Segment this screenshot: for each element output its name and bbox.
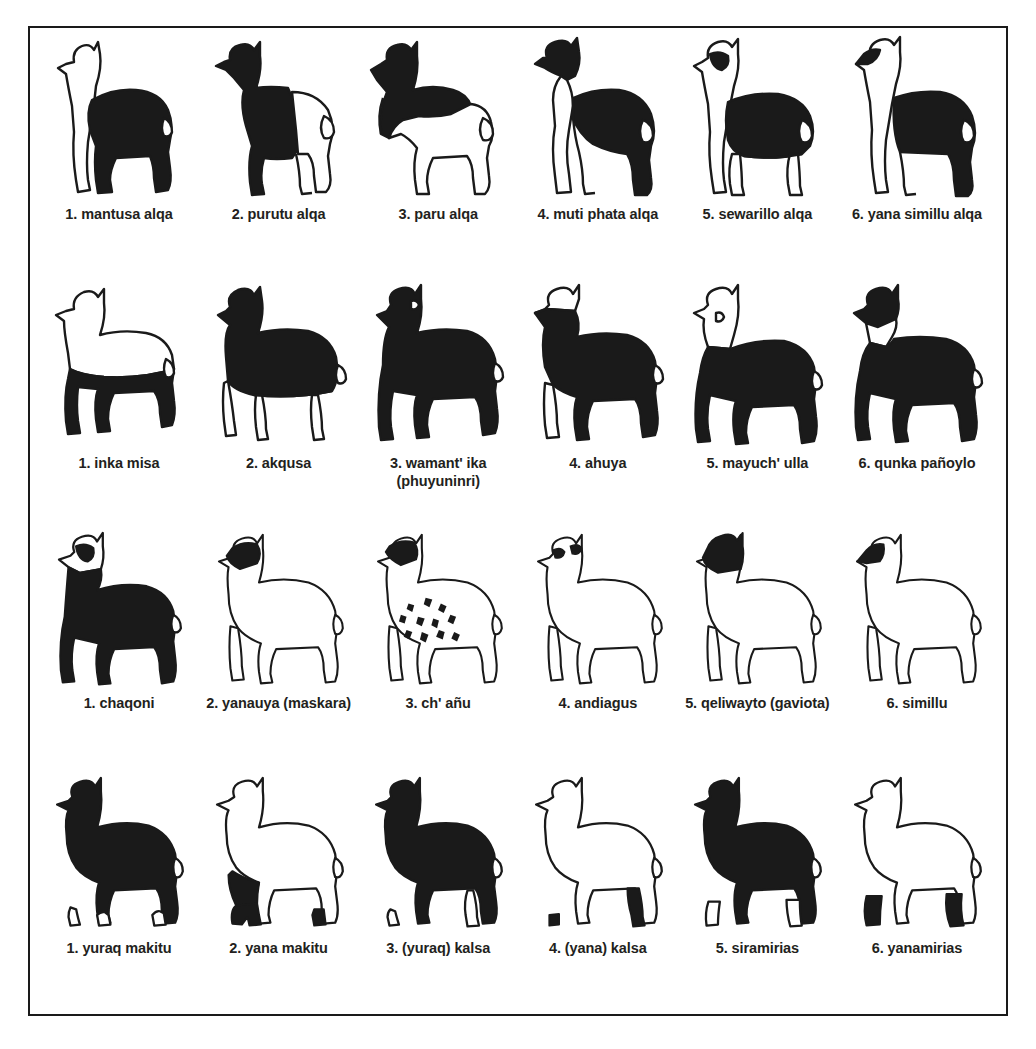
llama-cell-4-4: 4. (yana) kalsa <box>519 776 677 958</box>
llama-drawing-chanu-spotted <box>363 531 513 691</box>
llama-drawing-andiagus <box>523 531 673 691</box>
llama-drawing-qeliwayto-gaviota <box>682 531 832 691</box>
llama-label: 1. chaqoni <box>84 695 155 713</box>
llama-cell-3-2: 2. yanauya (maskara) <box>200 531 358 713</box>
llama-drawing-siramirias <box>682 776 832 936</box>
llama-label: 1. mantusa alqa <box>65 206 172 224</box>
llama-drawing-yana-kalsa <box>523 776 673 936</box>
llama-label: 2. purutu alqa <box>232 206 326 224</box>
llama-drawing-yuraq-makitu <box>44 776 194 936</box>
llama-drawing-muti-phata-alqa <box>523 34 673 202</box>
llama-label: 1. inka misa <box>78 455 159 473</box>
llama-drawing-qunka-panoylo <box>842 283 992 451</box>
llama-cell-1-5: 5. sewarillo alqa <box>678 34 836 224</box>
llama-drawing-akqusa <box>204 283 354 451</box>
llama-drawing-purutu-alqa <box>204 34 354 202</box>
llama-cell-2-4: 4. ahuya <box>519 283 677 473</box>
llama-pattern-figure: 1. mantusa alqa 2. purutu <box>0 0 1036 1049</box>
llama-label: 5. sewarillo alqa <box>703 206 813 224</box>
llama-label: 5. qeliwayto (gaviota) <box>685 695 829 713</box>
llama-cell-3-3: 3. ch' añu <box>359 531 517 713</box>
llama-label: 5. mayuch' ulla <box>706 455 808 473</box>
llama-cell-3-4: 4. andiagus <box>519 531 677 713</box>
llama-grid: 1. mantusa alqa 2. purutu <box>30 28 1006 1014</box>
llama-label: 6. simillu <box>886 695 947 713</box>
figure-border-frame: 1. mantusa alqa 2. purutu <box>28 26 1008 1016</box>
llama-cell-2-1: 1. inka misa <box>40 283 198 473</box>
llama-cell-4-2: 2. yana makitu <box>200 776 358 958</box>
llama-cell-4-6: 6. yanamirias <box>838 776 996 958</box>
llama-label: 2. akqusa <box>246 455 311 473</box>
llama-drawing-yuraq-kalsa <box>363 776 513 936</box>
llama-cell-1-3: 3. paru alqa <box>359 34 517 224</box>
llama-cell-1-4: 4. muti phata alqa <box>519 34 677 224</box>
llama-row-2: 1. inka misa <box>36 283 1000 530</box>
llama-cell-2-5: 5. mayuch' ulla <box>678 283 836 473</box>
llama-label: 3. paru alqa <box>398 206 477 224</box>
llama-label: 3. ch' añu <box>406 695 471 713</box>
llama-drawing-ahuya <box>523 283 673 451</box>
llama-drawing-inka-misa <box>44 283 194 451</box>
llama-cell-4-5: 5. siramirias <box>678 776 836 958</box>
llama-label: 1. yuraq makitu <box>67 940 172 958</box>
llama-label: 2. yanauya (maskara) <box>206 695 351 713</box>
llama-row-3: 1. chaqoni <box>36 531 1000 777</box>
llama-label: 4. andiagus <box>558 695 637 713</box>
llama-label: 5. siramirias <box>716 940 799 958</box>
llama-drawing-wamant-ika <box>363 283 513 451</box>
llama-cell-3-6: 6. simillu <box>838 531 996 713</box>
llama-label: 4. ahuya <box>569 455 626 473</box>
llama-drawing-yana-simillu-alqa <box>842 34 992 202</box>
llama-label: 3. (yuraq) kalsa <box>386 940 490 958</box>
llama-label: 6. qunka pañoylo <box>859 455 976 473</box>
llama-cell-4-3: 3. (yuraq) kalsa <box>359 776 517 958</box>
llama-drawing-yanauya-maskara <box>204 531 354 691</box>
llama-drawing-mayuch-ulla <box>682 283 832 451</box>
llama-cell-1-6: 6. yana simillu alqa <box>838 34 996 224</box>
llama-label: 4. muti phata alqa <box>537 206 658 224</box>
llama-cell-3-1: 1. chaqoni <box>40 531 198 713</box>
llama-drawing-simillu <box>842 531 992 691</box>
llama-cell-2-2: 2. akqusa <box>200 283 358 473</box>
llama-label: 6. yanamirias <box>872 940 963 958</box>
llama-cell-4-1: 1. yuraq makitu <box>40 776 198 958</box>
llama-cell-2-6: 6. qunka pañoylo <box>838 283 996 473</box>
llama-cell-2-3: 3. wamant' ika (phuyuninri) <box>359 283 517 490</box>
llama-drawing-paru-alqa <box>363 34 513 202</box>
llama-drawing-chaqoni <box>44 531 194 691</box>
llama-label: 6. yana simillu alqa <box>852 206 982 224</box>
llama-drawing-yana-makitu <box>204 776 354 936</box>
llama-row-1: 1. mantusa alqa 2. purutu <box>36 34 1000 283</box>
llama-label: 2. yana makitu <box>229 940 328 958</box>
llama-drawing-yanamirias <box>842 776 992 936</box>
llama-cell-1-2: 2. purutu alqa <box>200 34 358 224</box>
llama-cell-3-5: 5. qeliwayto (gaviota) <box>678 531 836 713</box>
llama-drawing-mantusa-alqa <box>44 34 194 202</box>
llama-label: 4. (yana) kalsa <box>549 940 647 958</box>
llama-row-4: 1. yuraq makitu <box>36 776 1000 1014</box>
llama-label: 3. wamant' ika (phuyuninri) <box>390 455 486 490</box>
llama-cell-1-1: 1. mantusa alqa <box>40 34 198 224</box>
llama-drawing-sewarillo-alqa <box>682 34 832 202</box>
